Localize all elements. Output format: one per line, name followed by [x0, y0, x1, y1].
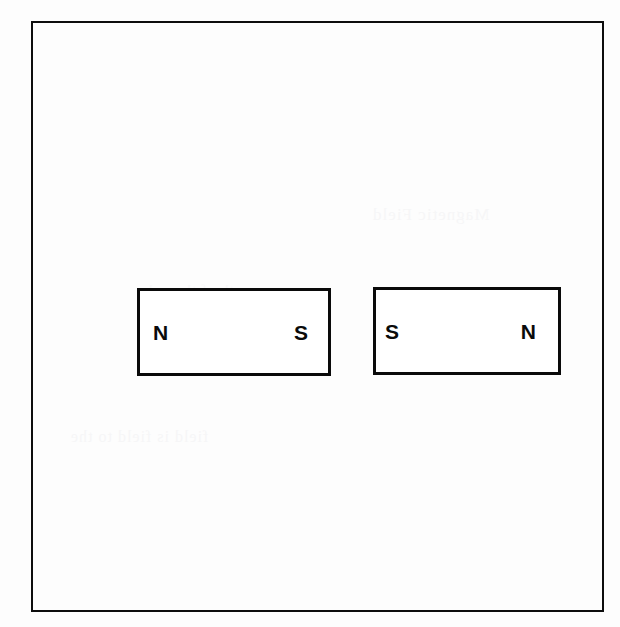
bar-magnet-left: N S: [137, 288, 331, 376]
bar-magnet-right: S N: [373, 287, 561, 375]
magnet-left-south-pole-label: S: [294, 322, 308, 343]
magnet-right-north-pole-label: N: [521, 321, 536, 342]
figure-page: y Magnetic Field field is field to the n…: [0, 0, 620, 627]
figure-border-frame: N S S N: [31, 21, 604, 612]
magnet-right-south-pole-label: S: [385, 321, 399, 342]
magnet-left-north-pole-label: N: [153, 322, 168, 343]
